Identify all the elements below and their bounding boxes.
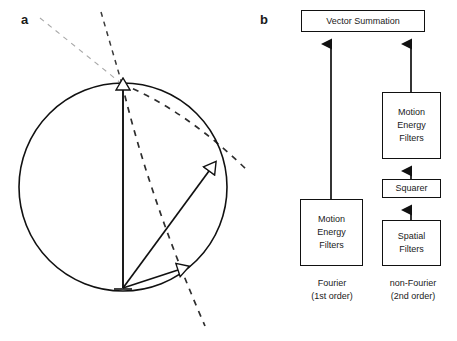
box-motion-energy-left-line3: Filters — [319, 239, 344, 252]
caption-fourier-line1: Fourier — [291, 277, 373, 290]
caption-non-fourier-line2: (2nd order) — [372, 290, 454, 303]
box-spatial-filters-line2: Filters — [399, 243, 424, 256]
caption-non-fourier: non-Fourier (2nd order) — [372, 277, 454, 303]
panel-label-a: a — [21, 13, 28, 26]
panel-b: b Vector Summation Motion Energy — [247, 0, 457, 341]
dashed-line-to-diagonal-tip — [122, 84, 247, 173]
vector-diagram-svg — [0, 0, 247, 341]
vector-diagonal — [123, 171, 209, 288]
caption-fourier-line2: (1st order) — [291, 290, 373, 303]
vector-resultant — [123, 270, 178, 288]
dashed-line-upper-left — [40, 18, 122, 84]
box-motion-energy-filters-nonfourier[interactable]: Motion Energy Filters — [382, 92, 441, 159]
panel-a: a — [0, 0, 247, 341]
box-spatial-filters-line1: Spatial — [398, 230, 426, 243]
box-squarer[interactable]: Squarer — [382, 179, 441, 198]
box-motion-energy-right-line3: Filters — [399, 132, 424, 145]
box-motion-energy-left-line2: Energy — [317, 226, 346, 239]
box-motion-energy-right-line2: Energy — [397, 119, 426, 132]
box-motion-energy-filters-fourier[interactable]: Motion Energy Filters — [300, 199, 363, 266]
box-squarer-label: Squarer — [395, 182, 427, 195]
caption-fourier: Fourier (1st order) — [291, 277, 373, 303]
box-motion-energy-right-line1: Motion — [398, 106, 425, 119]
box-spatial-filters[interactable]: Spatial Filters — [382, 220, 441, 266]
caption-non-fourier-line1: non-Fourier — [372, 277, 454, 290]
box-motion-energy-left-line1: Motion — [318, 213, 345, 226]
dashed-line-upper-right — [101, 12, 122, 84]
box-vector-summation[interactable]: Vector Summation — [301, 10, 425, 32]
figure-root: a b — [0, 0, 457, 341]
box-vector-summation-label: Vector Summation — [326, 15, 400, 28]
